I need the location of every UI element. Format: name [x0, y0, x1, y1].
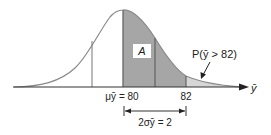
mean-label: μȳ = 80: [105, 91, 139, 102]
tail-probability-label: P(ȳ > 82): [192, 48, 237, 60]
dimension-arrow-left: [125, 109, 131, 114]
width-label: 2σȳ = 2: [138, 117, 172, 128]
tail-pointer-line: [203, 62, 210, 75]
tail-pointer-arrowhead: [201, 72, 207, 79]
region-a-label: A: [137, 45, 145, 57]
x-axis-arrowhead: [239, 84, 249, 91]
normal-curve-diagram: A P(ȳ > 82) ȳ μȳ = 80 82 2σȳ = 2: [0, 0, 271, 135]
axis-label-ybar: ȳ: [250, 82, 258, 94]
tick-82-label: 82: [180, 91, 192, 102]
dimension-arrow-right: [179, 109, 185, 114]
